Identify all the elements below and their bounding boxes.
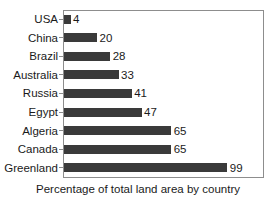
bar-china bbox=[64, 33, 97, 42]
bar-row: Australia 33 bbox=[0, 66, 276, 85]
bar-row: Greenland 99 bbox=[0, 158, 276, 177]
bar-row: Russia 41 bbox=[0, 84, 276, 103]
category-label: Australia bbox=[0, 69, 58, 81]
value-label: 4 bbox=[73, 13, 79, 25]
value-label: 65 bbox=[174, 143, 187, 155]
value-label: 33 bbox=[121, 69, 134, 81]
category-label: Russia bbox=[0, 87, 58, 99]
category-label: Brazil bbox=[0, 50, 58, 62]
bar-brazil bbox=[64, 52, 110, 61]
value-label: 47 bbox=[144, 106, 157, 118]
bar-egypt bbox=[64, 108, 142, 117]
value-label: 28 bbox=[113, 50, 126, 62]
category-label: Greenland bbox=[0, 162, 58, 174]
bar-australia bbox=[64, 70, 119, 79]
bar-rows: USA 4 China 20 Brazil 28 Australia 33 Ru… bbox=[0, 10, 276, 178]
value-label: 41 bbox=[134, 87, 147, 99]
value-label: 65 bbox=[174, 125, 187, 137]
bar-greenland bbox=[64, 163, 227, 172]
bar-row: Brazil 28 bbox=[0, 47, 276, 66]
bar-chart-figure: USA 4 China 20 Brazil 28 Australia 33 Ru… bbox=[0, 0, 276, 201]
category-label: China bbox=[0, 32, 58, 44]
bar-row: Canada 65 bbox=[0, 140, 276, 159]
bar-usa bbox=[64, 15, 71, 24]
bar-row: Algeria 65 bbox=[0, 121, 276, 140]
category-label: Canada bbox=[0, 143, 58, 155]
category-label: Algeria bbox=[0, 125, 58, 137]
bar-algeria bbox=[64, 126, 171, 135]
bar-row: USA 4 bbox=[0, 10, 276, 29]
bar-russia bbox=[64, 89, 132, 98]
value-label: 20 bbox=[100, 32, 113, 44]
category-label: Egypt bbox=[0, 106, 58, 118]
bar-canada bbox=[64, 145, 171, 154]
bar-row: Egypt 47 bbox=[0, 103, 276, 122]
category-label: USA bbox=[0, 13, 58, 25]
value-label: 99 bbox=[230, 162, 243, 174]
bar-row: China 20 bbox=[0, 29, 276, 48]
chart-caption: Percentage of total land area by country bbox=[0, 183, 276, 195]
